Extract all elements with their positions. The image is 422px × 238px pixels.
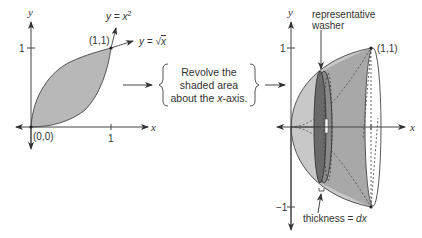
washer-label-line1: representative <box>312 9 376 20</box>
point-label: (1,1) <box>377 43 398 54</box>
intersection-label: (1,1) <box>89 35 110 46</box>
intersection-point <box>109 46 112 49</box>
instruction-line-1: Revolve the <box>181 66 237 78</box>
y-axis-label: y <box>27 6 33 18</box>
curve-x-squared <box>111 28 116 48</box>
x-tick-label: 1 <box>108 133 114 144</box>
shaded-region <box>31 48 111 127</box>
curve-sqrt-x-label: y = √x <box>138 36 167 47</box>
y-tick-label: 1 <box>19 43 25 54</box>
instruction-line-3: about the x-axis. <box>170 92 247 104</box>
right-brace <box>250 64 259 106</box>
instruction-line-2: shaded area <box>180 79 239 91</box>
y-tick-bottom-label: −1 <box>276 202 288 213</box>
diagram-canvas: y x 1 1 (0,0) (1,1) y = x2 y = √x Revolv… <box>0 0 422 238</box>
left-brace <box>159 64 168 106</box>
x-axis-label: x <box>150 121 156 133</box>
origin-point <box>29 125 32 128</box>
instruction-group: Revolve the shaded area about the x-axis… <box>123 64 285 106</box>
x-axis-label: x <box>409 121 415 133</box>
thickness-label: thickness = dx <box>303 213 368 224</box>
washer-label-line2: washer <box>311 20 345 31</box>
left-graph: y x 1 1 (0,0) (1,1) y = x2 y = √x <box>16 6 167 149</box>
thickness-bracket <box>319 188 324 191</box>
curve-sqrt-x <box>111 41 133 48</box>
curve-x-squared-label: y = x2 <box>105 10 131 22</box>
origin-label: (0,0) <box>33 131 54 142</box>
right-graph: y x 1 −1 (1,1) representative washer thi… <box>276 6 415 230</box>
y-axis-label: y <box>287 6 293 18</box>
thickness-pointer <box>318 194 321 213</box>
point-top <box>369 46 372 49</box>
y-tick-top-label: 1 <box>280 43 286 54</box>
point-bottom <box>369 205 372 208</box>
